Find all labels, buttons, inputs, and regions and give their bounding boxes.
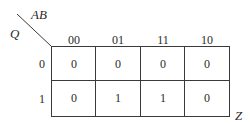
cell-q0-ab10: 0 (185, 47, 229, 81)
corner-diagonal-line (0, 0, 60, 50)
row-header-1: 1 (36, 92, 48, 107)
karnaugh-map-grid: 0 0 0 0 0 1 1 0 (51, 46, 230, 117)
cell-q1-ab00: 0 (52, 81, 96, 115)
row-variable-label: Q (10, 27, 19, 40)
cell-q0-ab11: 0 (141, 47, 185, 81)
column-variables-label: AB (31, 8, 47, 21)
cell-q1-ab11: 1 (141, 81, 185, 115)
cell-q1-ab01: 1 (96, 81, 140, 115)
cell-q0-ab01: 0 (96, 47, 140, 81)
row-header-0: 0 (36, 57, 48, 72)
output-label: Z (235, 109, 242, 122)
cell-q1-ab10: 0 (185, 81, 229, 115)
cell-q0-ab00: 0 (52, 47, 96, 81)
